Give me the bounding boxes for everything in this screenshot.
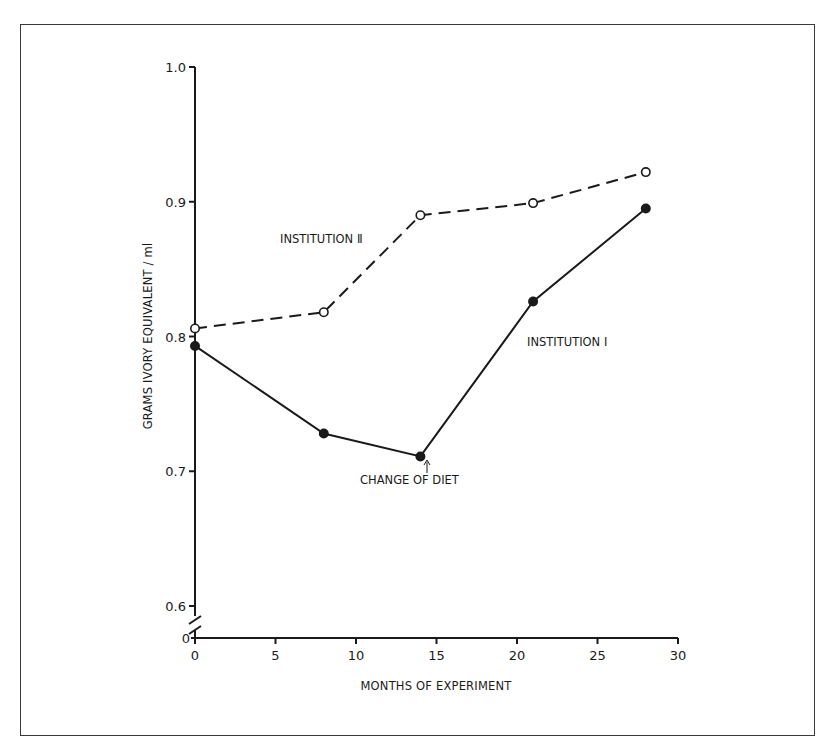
label-change-of-diet: CHANGE OF DIET	[360, 473, 460, 487]
y-tick-label: 0.8	[165, 330, 186, 345]
series-line-institution-ii	[195, 172, 646, 328]
open-circle-marker-icon	[642, 168, 650, 176]
x-tick-label: 20	[509, 648, 526, 663]
label-institution-2: INSTITUTION Ⅱ	[280, 232, 363, 246]
axes: 0.60.70.80.91.00051015202530	[165, 60, 686, 663]
x-tick-label: 10	[348, 648, 365, 663]
x-axis-title: MONTHS OF EXPERIMENT	[360, 679, 512, 693]
y-tick-label: 0.6	[165, 599, 186, 614]
change-of-diet-arrow-icon	[424, 460, 430, 473]
filled-circle-marker-icon	[320, 429, 328, 437]
filled-circle-marker-icon	[642, 204, 650, 212]
x-tick-label: 0	[191, 648, 199, 663]
filled-circle-marker-icon	[529, 297, 537, 305]
y-axis-title: GRAMS IVORY EQUIVALENT / ml	[141, 243, 155, 430]
y-tick-label: 1.0	[165, 60, 186, 75]
filled-circle-marker-icon	[191, 342, 199, 350]
open-circle-marker-icon	[191, 324, 199, 332]
x-tick-label: 30	[670, 648, 687, 663]
x-tick-label: 5	[271, 648, 279, 663]
y-break-zero-label: 0	[182, 631, 190, 646]
x-tick-label: 15	[428, 648, 445, 663]
open-circle-marker-icon	[529, 199, 537, 207]
series-line-institution-i	[195, 209, 646, 457]
x-tick-label: 25	[589, 648, 606, 663]
label-institution-1: INSTITUTION Ⅰ	[527, 335, 607, 349]
data-markers	[191, 168, 650, 461]
open-circle-marker-icon	[416, 211, 424, 219]
y-tick-label: 0.9	[165, 195, 186, 210]
y-tick-label: 0.7	[165, 464, 186, 479]
line-chart: 0.60.70.80.91.00051015202530 INSTITUTION…	[0, 0, 827, 750]
filled-circle-marker-icon	[416, 452, 424, 460]
axis-break-mark	[189, 616, 201, 624]
open-circle-marker-icon	[320, 308, 328, 316]
